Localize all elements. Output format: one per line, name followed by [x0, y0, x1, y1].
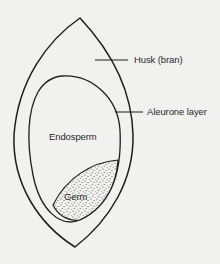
- germ-label: Germ: [64, 192, 87, 202]
- endosperm-label: Endosperm: [49, 132, 97, 142]
- grain-cross-section-drawing: [0, 0, 220, 264]
- aleurone-label: Aleurone layer: [147, 107, 207, 117]
- grain-diagram: Husk (bran) Aleurone layer Endosperm Ger…: [0, 0, 220, 264]
- husk-label: Husk (bran): [134, 55, 183, 65]
